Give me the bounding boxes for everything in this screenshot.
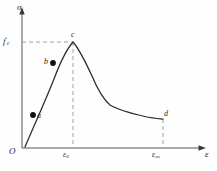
strain-at-peak-tick-label: ε0 — [63, 151, 69, 160]
ultimate-strain-tick-label: εcu — [152, 151, 160, 160]
curve-point-a-label: a — [37, 112, 41, 120]
stress-strain-figure: σ ε O f′c ε0 εcu a b c d — [0, 0, 217, 171]
curve-point-b-label: b — [44, 58, 48, 66]
curve-point-a-marker — [30, 112, 36, 118]
y-axis — [19, 7, 24, 148]
sigma-stress-axis-label: σ — [17, 3, 21, 12]
x-axis — [22, 145, 206, 150]
ultimate-strain-subscript: cu — [155, 154, 160, 159]
epsilon-strain-axis-label: ε — [205, 150, 209, 159]
stress-strain-plot — [0, 0, 217, 171]
strain-at-peak-subscript: 0 — [66, 154, 68, 159]
peak-stress-subscript: c — [7, 40, 9, 46]
curve-point-d-label: d — [164, 110, 168, 118]
peak-stress-value-label: f′c — [3, 36, 9, 47]
curve-point-b-marker — [50, 60, 56, 66]
curve-point-c-label: c — [71, 31, 75, 39]
origin-label: O — [9, 147, 16, 156]
